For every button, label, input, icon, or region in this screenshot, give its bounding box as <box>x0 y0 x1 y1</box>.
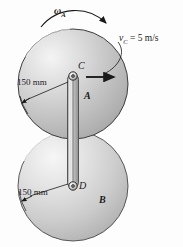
velocity-subscript: C <box>123 38 127 45</box>
omega-subscript: A <box>61 11 66 18</box>
pin-d-inner <box>72 185 75 188</box>
label-angular-velocity-a: ωA <box>54 6 66 19</box>
pin-c <box>69 72 77 80</box>
label-disk-a: A <box>84 91 91 101</box>
label-dimension-radius-a: 150 mm <box>17 78 47 87</box>
label-point-c: C <box>78 61 85 71</box>
label-dimension-radius-b: 150 mm <box>18 188 48 197</box>
pin-d <box>69 182 77 190</box>
label-velocity-c: vC = 5 m/s <box>119 34 159 45</box>
velocity-value: = 5 m/s <box>130 33 159 43</box>
angular-velocity-arrow <box>41 11 106 27</box>
label-point-d: D <box>79 181 86 191</box>
label-disk-b: B <box>99 195 106 205</box>
mechanics-diagram: ωA vC = 5 m/s C D A B 150 mm 150 mm <box>0 0 183 247</box>
pin-c-inner <box>72 75 75 78</box>
link-bar-cd <box>68 74 79 188</box>
omega-arc <box>41 11 106 27</box>
